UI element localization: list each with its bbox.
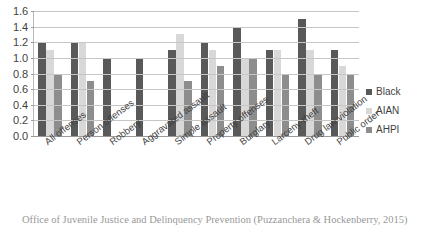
- y-axis-tick-mark: [31, 89, 34, 90]
- gridline: [34, 11, 359, 12]
- legend-label: AHPI: [376, 125, 399, 135]
- y-axis-tick-mark: [31, 27, 34, 28]
- gridline: [34, 89, 359, 90]
- caption-text: Office of Juvenile Justice and Delinquen…: [22, 214, 407, 226]
- legend-swatch-icon: [366, 127, 372, 133]
- bar: [46, 50, 53, 136]
- y-axis-tick-label: 1.6: [13, 6, 28, 17]
- gridline: [34, 42, 359, 43]
- legend-item: AHPI: [366, 120, 421, 139]
- x-axis-category-labels: All offensesPerson offensesRobberyAggrav…: [0, 136, 421, 204]
- y-axis-tick-mark: [31, 105, 34, 106]
- legend-item: Black: [366, 82, 421, 101]
- gridline: [34, 58, 359, 59]
- bar: [274, 50, 281, 136]
- y-axis-tick-mark: [31, 11, 34, 12]
- y-axis-tick-label: 1.0: [13, 52, 28, 63]
- y-axis-tick-label: 0.6: [13, 84, 28, 95]
- legend-label: AIAN: [376, 106, 399, 116]
- legend: BlackAIANAHPI: [366, 82, 421, 139]
- y-axis-tick-label: 0.8: [13, 68, 28, 79]
- legend-swatch-icon: [366, 89, 372, 95]
- bar: [241, 58, 248, 136]
- legend-swatch-icon: [366, 108, 372, 114]
- y-axis-tick-label: 1.4: [13, 21, 28, 32]
- y-axis-tick-labels: 0.00.20.40.60.81.01.21.41.6: [0, 4, 30, 136]
- legend-item: AIAN: [366, 101, 421, 120]
- gridline: [34, 74, 359, 75]
- y-axis-tick-mark: [31, 42, 34, 43]
- y-axis-tick-label: 0.4: [13, 99, 28, 110]
- figure-container: 0.00.20.40.60.81.01.21.41.6 All offenses…: [0, 0, 421, 227]
- y-axis-tick-label: 0.2: [13, 115, 28, 126]
- bar-chart: 0.00.20.40.60.81.01.21.41.6 All offenses…: [0, 4, 421, 204]
- gridline: [34, 27, 359, 28]
- y-axis-tick-mark: [31, 74, 34, 75]
- y-axis-tick-label: 1.2: [13, 37, 28, 48]
- figure-caption: Office of Juvenile Justice and Delinquen…: [0, 214, 421, 227]
- y-axis-tick-mark: [31, 120, 34, 121]
- legend-label: Black: [376, 87, 400, 97]
- bar: [339, 66, 346, 136]
- y-axis-tick-mark: [31, 58, 34, 59]
